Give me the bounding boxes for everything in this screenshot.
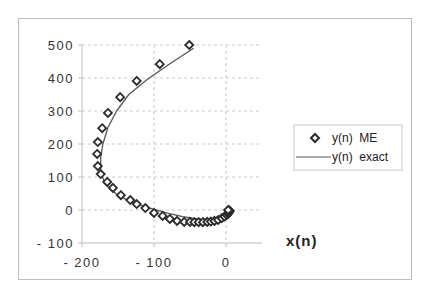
y-tick-label: - 100 [37,236,74,251]
y-axis-ticks: - 1000100200300400500 [37,38,82,251]
y-tick-label: 200 [48,137,74,152]
x-tick-label: - 100 [135,255,172,270]
y-tick-label: 300 [48,104,74,119]
data-point-marker [133,77,141,85]
x-axis-ticks: - 200- 1000 [63,243,230,270]
chart-plot: - 1000100200300400500 - 200- 1000 x(n) y… [0,0,429,307]
legend: y(n) ME y(n) exact [294,125,402,170]
gridlines [82,45,262,243]
y-tick-label: 0 [65,203,74,218]
data-point-marker [103,178,111,186]
legend-label-me: y(n) ME [332,131,377,145]
x-tick-label: - 200 [63,255,100,270]
data-point-marker [98,124,106,132]
data-point-marker [104,109,112,117]
y-tick-label: 500 [48,38,74,53]
data-point-marker [156,60,164,68]
data-point-marker [93,150,101,158]
y-tick-label: 100 [48,170,74,185]
data-point-marker [185,41,193,49]
x-axis-title: x(n) [286,232,318,249]
data-point-marker [109,184,117,192]
x-tick-label: 0 [222,255,231,270]
legend-label-exact: y(n) exact [332,150,389,164]
y-tick-label: 400 [48,71,74,86]
data-point-marker [94,138,102,146]
data-point-marker [116,93,124,101]
